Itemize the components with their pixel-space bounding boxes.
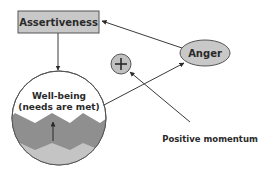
plus-node: [111, 54, 131, 74]
wellbeing-label-line1: Well-being: [32, 91, 86, 101]
wellbeing-label-line2: (needs are met): [18, 102, 99, 112]
wellbeing-dark-band: [10, 113, 110, 177]
positive-momentum-label: Positive momentum: [162, 134, 258, 144]
edge-momentum-to-plus: [130, 72, 190, 122]
diagram-canvas: Well-being (needs are met) Assertiveness…: [0, 0, 262, 177]
wellbeing-node: Well-being (needs are met): [10, 71, 110, 177]
anger-label: Anger: [188, 48, 222, 59]
assertiveness-label: Assertiveness: [19, 17, 98, 28]
anger-node: Anger: [180, 40, 230, 66]
assertiveness-node: Assertiveness: [18, 11, 99, 33]
edge-anger-to-assertiveness: [102, 21, 182, 48]
